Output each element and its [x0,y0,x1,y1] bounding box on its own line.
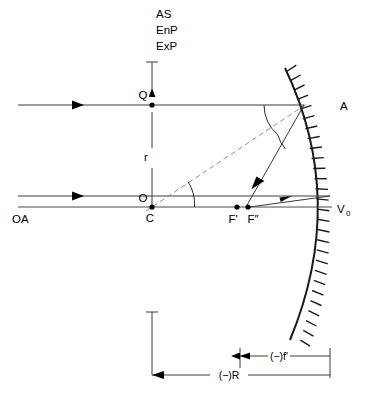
radius-label: r [144,151,148,163]
optical-axis-label: OA [12,213,29,225]
point-dot-q [149,102,154,107]
incident-ray-upper [18,101,304,110]
vertex-letter: V [337,203,345,215]
mirror-normal-line [146,103,308,211]
radius-of-curvature-arrowhead [152,371,164,379]
radius-of-curvature-dimension [152,371,330,379]
exit-pupil-label: ExP [156,40,177,52]
entrance-pupil-label: EnP [156,24,178,36]
point-label-f-prime: F' [228,213,237,225]
angle-arc-incidence-at-a [264,105,278,135]
aperture-stop-label: AS [156,8,172,20]
radius-of-curvature-label: (−)R [219,369,240,381]
ray-diagram-figure: AS EnP ExP Q A r O C OA F' F″ V 0 (−)f' … [0,0,372,397]
extension-line-center [146,312,158,375]
focal-length-arrowhead [240,353,250,360]
vertex-subscript: 0 [346,209,351,218]
incident-ray-upper-arrowhead [72,101,84,110]
reflected-ray-upper [246,105,304,207]
point-dot-c [149,204,154,209]
mirror-hatching [287,65,330,346]
point-label-c: C [146,212,154,224]
angle-arc-reflection-at-a [278,135,286,150]
point-label-q: Q [139,89,148,101]
focal-length-label: (−)f' [270,350,288,362]
angle-arc-at-center [188,182,195,208]
incident-ray-lower-arrowhead [72,192,84,201]
point-dot-f-prime [234,204,239,209]
point-label-a: A [340,100,348,112]
point-label-o: O [139,192,148,204]
radius-dimension [146,62,158,207]
point-label-f-double-prime: F″ [247,213,258,225]
diagram-canvas: AS EnP ExP Q A r O C OA F' F″ V 0 (−)f' … [0,0,372,397]
point-label-vertex: V 0 [337,203,351,218]
point-dot-f-double-prime [245,204,250,209]
